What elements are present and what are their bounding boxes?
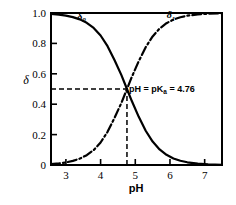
speciation-chart: 34567 00.20.40.60.81.0 δ0δ1 pH = pKa = 4… [0, 0, 236, 205]
pka-annotation: pH = pKa = 4.76 [129, 84, 195, 95]
curve-label-δ1: δ1 [167, 9, 176, 23]
chart-annotations: pH = pKa = 4.76 [129, 84, 195, 95]
y-tick-label-0.8: 0.8 [32, 37, 46, 49]
y-tick-label-0: 0 [41, 159, 47, 171]
x-tick-label-7: 7 [202, 169, 208, 181]
curve-labels: δ0δ1 [77, 9, 175, 24]
x-tick-label-6: 6 [167, 169, 173, 181]
x-axis-title: pH [129, 182, 144, 194]
x-tick-label-5: 5 [133, 169, 139, 181]
y-tick-label-1.0: 1.0 [32, 7, 46, 19]
y-tick-label-0.4: 0.4 [32, 98, 46, 110]
y-axis-title: δ [23, 73, 29, 87]
y-tick-label-0.6: 0.6 [32, 68, 46, 80]
chart-svg: 34567 00.20.40.60.81.0 δ0δ1 pH = pKa = 4… [0, 0, 236, 205]
y-axis-tick-labels: 00.20.40.60.81.0 [32, 7, 46, 171]
x-tick-label-3: 3 [63, 169, 69, 181]
x-tick-label-4: 4 [98, 169, 104, 181]
x-axis-tick-labels: 34567 [63, 169, 208, 181]
y-tick-label-0.2: 0.2 [32, 129, 46, 141]
